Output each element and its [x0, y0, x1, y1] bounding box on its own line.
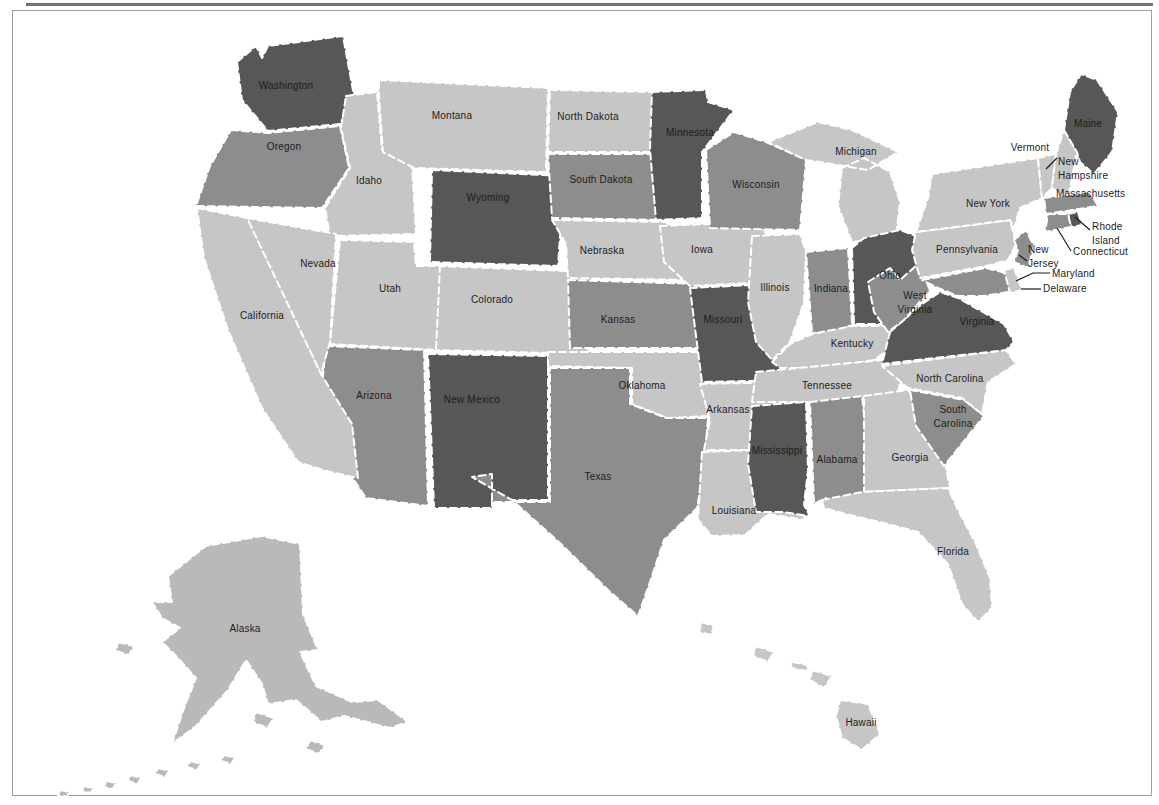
state-montana	[379, 80, 548, 172]
state-label-wisconsin: Wisconsin	[732, 179, 779, 190]
state-label-north-dakota: North Dakota	[557, 111, 619, 122]
state-label-oregon: Oregon	[267, 141, 302, 152]
state-label-indiana: Indiana	[814, 283, 848, 294]
leader-line-maryland	[1016, 273, 1050, 281]
state-label-alabama: Alabama	[817, 454, 858, 465]
state-label-delaware: Delaware	[1043, 283, 1087, 294]
state-label-illinois: Illinois	[760, 282, 789, 293]
state-wyoming	[430, 170, 564, 266]
state-label-oklahoma: Oklahoma	[618, 380, 665, 391]
state-oregon	[196, 126, 349, 208]
leader-line-connecticut	[1057, 228, 1071, 251]
state-label-missouri: Missouri	[704, 314, 743, 325]
state-label-idaho: Idaho	[356, 175, 382, 186]
state-label-utah: Utah	[379, 283, 401, 294]
state-label-kansas: Kansas	[601, 314, 636, 325]
state-label-florida: Florida	[937, 546, 969, 557]
state-label-connecticut: Connecticut	[1073, 246, 1128, 257]
state-label-mississippi: Mississippi	[752, 445, 803, 456]
state-label-pennsylvania: Pennsylvania	[936, 244, 998, 255]
state-label-ohio: Ohio	[879, 270, 901, 281]
state-label-louisiana: Louisiana	[712, 505, 757, 516]
state-new-york	[916, 158, 1042, 232]
state-utah	[330, 240, 440, 350]
state-label-minnesota: Minnesota	[666, 127, 714, 138]
us-map-svg: WashingtonOregonIdahoMontanaWyomingColor…	[0, 0, 1159, 805]
state-label-massachusetts: Massachusetts	[1056, 188, 1125, 199]
state-hawaii	[699, 622, 880, 750]
state-label-maine: Maine	[1074, 118, 1102, 129]
state-label-texas: Texas	[584, 471, 611, 482]
state-label-montana: Montana	[432, 110, 473, 121]
state-label-kentucky: Kentucky	[831, 338, 874, 349]
state-alaska	[58, 536, 408, 797]
state-label-california: California	[240, 310, 284, 321]
state-mississippi	[748, 402, 810, 516]
state-south-dakota	[548, 154, 666, 220]
state-label-new-mexico: New Mexico	[444, 394, 501, 405]
state-label-colorado: Colorado	[471, 294, 513, 305]
state-label-wyoming: Wyoming	[467, 192, 510, 203]
state-label-nebraska: Nebraska	[580, 245, 625, 256]
state-label-south-dakota: South Dakota	[570, 174, 633, 185]
state-label-new-jersey: NewJersey	[1028, 244, 1059, 269]
state-label-new-york: New York	[966, 198, 1011, 209]
state-label-arizona: Arizona	[356, 390, 392, 401]
state-label-vermont: Vermont	[1011, 142, 1050, 153]
state-label-georgia: Georgia	[892, 452, 929, 463]
state-label-hawaii: Hawaii	[845, 717, 876, 728]
state-label-north-carolina: North Carolina	[916, 373, 984, 384]
state-label-tennessee: Tennessee	[802, 380, 852, 391]
state-label-michigan: Michigan	[835, 146, 877, 157]
state-label-rhode-island: RhodeIsland	[1092, 221, 1123, 246]
state-label-nevada: Nevada	[300, 258, 336, 269]
state-label-arkansas: Arkansas	[706, 404, 749, 415]
state-kansas	[568, 280, 704, 348]
state-label-iowa: Iowa	[691, 244, 713, 255]
state-label-virginia: Virginia	[960, 316, 995, 327]
state-label-washington: Washington	[259, 80, 313, 91]
states-layer	[58, 36, 1118, 797]
state-label-maryland: Maryland	[1052, 268, 1095, 279]
state-label-alaska: Alaska	[229, 623, 260, 634]
